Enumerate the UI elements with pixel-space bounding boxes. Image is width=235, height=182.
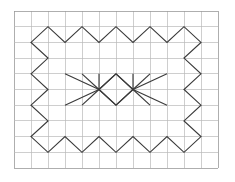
figure-background xyxy=(0,0,235,182)
zigzag-star-lattice-figure xyxy=(0,0,235,182)
